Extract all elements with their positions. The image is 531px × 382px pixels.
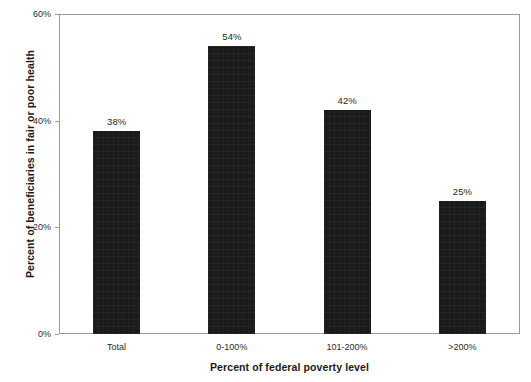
bar[interactable] <box>324 110 371 334</box>
y-tick-label: 0% <box>7 329 51 339</box>
bar[interactable] <box>439 201 486 334</box>
bar-slot: 42% <box>324 14 371 334</box>
bar-value-label: 42% <box>338 95 357 106</box>
bar-slot: 25% <box>439 14 486 334</box>
x-tick-label: 101-200% <box>297 342 397 353</box>
bar-slot: 54% <box>208 14 255 334</box>
bar-value-label: 54% <box>222 31 241 42</box>
bar-value-label: 38% <box>107 116 126 127</box>
x-tick-label: 0-100% <box>182 342 282 353</box>
bar-value-label: 25% <box>453 186 472 197</box>
y-tick-label: 20% <box>7 222 51 232</box>
x-tick-label: >200% <box>412 342 512 353</box>
bar-slot: 38% <box>93 14 140 334</box>
y-tick-mark <box>55 334 59 335</box>
bar-chart: Percent of beneficiaries in fair or poor… <box>0 0 531 382</box>
bar[interactable] <box>93 131 140 334</box>
x-axis-title: Percent of federal poverty level <box>59 361 520 373</box>
bars-group: 38%54%42%25% <box>59 14 520 334</box>
bar[interactable] <box>208 46 255 334</box>
x-tick-label: Total <box>67 342 167 353</box>
y-axis-title: Percent of beneficiaries in fair or poor… <box>20 0 40 338</box>
y-tick-label: 40% <box>7 116 51 126</box>
y-tick-label: 60% <box>7 9 51 19</box>
